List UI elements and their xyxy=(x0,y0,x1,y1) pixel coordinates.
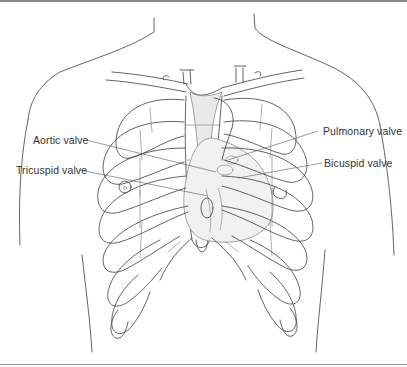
bottom-border xyxy=(0,364,407,365)
label-tricuspid-valve: Tricuspid valve xyxy=(16,164,87,176)
label-aortic-valve: Aortic valve xyxy=(33,134,88,146)
chest-anatomy-illustration xyxy=(0,0,407,367)
costal-margin xyxy=(160,238,246,280)
label-bicuspid-valve: Bicuspid valve xyxy=(324,157,393,169)
ribs-left xyxy=(98,99,188,338)
clavicles xyxy=(106,70,304,96)
label-pulmonary-valve: Pulmonary valve xyxy=(323,125,402,137)
leader-pulmonary xyxy=(228,131,318,160)
